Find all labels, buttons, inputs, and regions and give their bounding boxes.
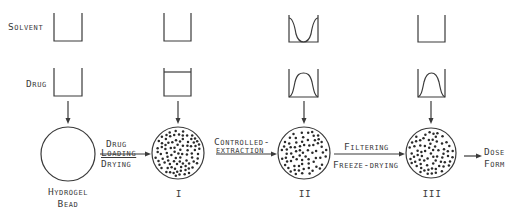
solvent-beaker-0	[54, 13, 82, 41]
transition-label-loading: Loading	[101, 147, 136, 158]
drug-particles-III	[408, 131, 454, 175]
stage-label-II: II	[299, 188, 312, 199]
drug-particles-I	[154, 130, 200, 177]
transition-label-extraction: extraction	[216, 144, 264, 155]
row-label-solvent: Solvent	[8, 21, 43, 32]
solvent-beaker-1	[164, 13, 191, 41]
drug-bell-profile-3	[418, 73, 445, 97]
stage-label-hydrogel: Hydrogel	[48, 186, 88, 197]
dose-form-label-line1: Dose	[484, 146, 505, 157]
stage-label-III: III	[423, 188, 442, 199]
transition-label-filtering: Filtering	[344, 141, 389, 152]
transition-label-freeze-drying: Freeze-drying	[333, 159, 399, 170]
hydrogel-bead	[41, 127, 95, 181]
drug-particles-II	[281, 131, 328, 175]
drug-bell-profile-2	[289, 73, 318, 97]
dose-form-label-line2: Form	[484, 158, 505, 169]
stage-label-bead: Bead	[58, 198, 79, 209]
drug-loading-process-diagram: Solvent Drug Drug Loading Drying Control…	[0, 0, 519, 218]
stage-label-I: I	[176, 188, 182, 199]
solvent-beaker-3	[418, 15, 445, 42]
row-label-drug: Drug	[26, 78, 47, 89]
transition-label-drying: Drying	[101, 158, 131, 169]
solvent-u-profile	[289, 18, 318, 42]
solvent-beaker-2	[289, 15, 318, 42]
drug-beaker-0	[54, 68, 82, 96]
